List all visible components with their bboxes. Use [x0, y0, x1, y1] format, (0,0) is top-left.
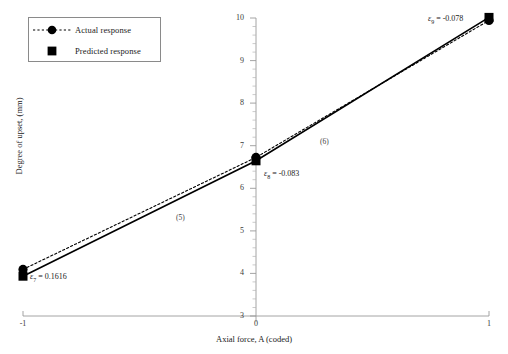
legend-item-actual-response: Actual response [29, 19, 160, 41]
y-tick-label-5: 5 [214, 226, 244, 235]
y-axis-title: Degree of upset, (mm) [14, 76, 24, 196]
y-tick-label-6: 6 [214, 183, 244, 192]
x-tick-label-0: 0 [241, 319, 271, 328]
point-label-6: (6) [320, 137, 329, 146]
epsilon-value-7: = 0.1616 [36, 272, 67, 281]
y-axis-minor-ticks [253, 27, 257, 308]
y-tick-label-9: 9 [214, 56, 244, 65]
annotation-epsilon-9: ε9 = -0.078 [428, 14, 463, 25]
y-axis-major-ticks [250, 18, 256, 316]
x-axis-title: Axial force, A (coded) [0, 334, 508, 344]
epsilon-value-9: = -0.078 [434, 14, 463, 23]
legend-label-actual-response: Actual response [75, 25, 131, 35]
y-tick-label-3: 3 [214, 311, 244, 320]
legend-marker-square [29, 41, 75, 61]
chart-figure: Actual response Predicted response 10 9 … [0, 0, 508, 354]
x-tick-label-1: 1 [474, 319, 504, 328]
x-tick-label-minus1: -1 [8, 319, 38, 328]
y-tick-label-4: 4 [214, 268, 244, 277]
y-tick-label-8: 8 [214, 98, 244, 107]
epsilon-value-8: = -0.083 [270, 169, 299, 178]
annotation-epsilon-7: ε7 = 0.1616 [30, 272, 67, 283]
chart-legend: Actual response Predicted response [28, 17, 161, 62]
legend-item-predicted-response: Predicted response [29, 40, 160, 62]
y-tick-label-7: 7 [214, 141, 244, 150]
point-label-5: (5) [176, 213, 185, 222]
legend-label-predicted-response: Predicted response [75, 46, 141, 56]
legend-marker-circle-dotted [29, 20, 75, 40]
annotation-epsilon-8: ε8 = -0.083 [264, 169, 299, 180]
y-tick-label-10: 10 [214, 13, 244, 22]
